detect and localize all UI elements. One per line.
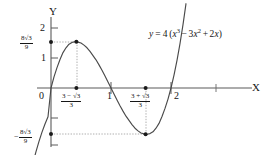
- point-y-axis-min-marker: [49, 132, 53, 136]
- x-tick-label-1: 1: [107, 91, 112, 101]
- equation-minus: −: [182, 29, 187, 39]
- equation-coefficient: 4: [163, 29, 168, 39]
- point-y-axis-max-marker: [49, 40, 53, 44]
- y-max-fraction-label: 8√3 9: [20, 34, 33, 52]
- x-max-fraction-label: 3 − √3 3: [61, 92, 81, 110]
- y-axis-label: Y: [49, 6, 57, 17]
- equation-plus: +: [203, 29, 208, 39]
- point-x-axis-min-marker: [144, 86, 148, 90]
- x-axis-label: X: [252, 82, 260, 93]
- cubic-curve: [33, 4, 186, 155]
- x-min-fraction-label: 3 + √3 3: [130, 92, 150, 110]
- equation-term2-exponent: 2: [198, 27, 201, 34]
- equation-equals: =: [155, 29, 160, 39]
- y-min-sign: −: [14, 133, 19, 141]
- y-min-fraction-label: − 8√3 9: [14, 126, 32, 145]
- equation-term1-exponent: 3: [177, 27, 180, 34]
- y-tick-label-2: 2: [40, 23, 45, 33]
- x-max-denominator: 3: [61, 102, 81, 110]
- equation-lhs: y: [149, 29, 153, 39]
- x-min-denominator: 3: [130, 102, 150, 110]
- curve-equation-label: y=4(x3−3x2+2x): [149, 30, 222, 40]
- point-local-maximum: [74, 40, 78, 44]
- point-local-minimum: [144, 132, 148, 136]
- equation-close-paren: ): [219, 29, 222, 39]
- x-tick-label-0: 0: [39, 91, 44, 101]
- y-tick-label-1: 1: [41, 53, 46, 63]
- point-x-axis-max-marker: [74, 86, 78, 90]
- y-min-denominator: 9: [19, 138, 32, 146]
- x-tick-label-2: 2: [174, 91, 179, 101]
- y-max-denominator: 9: [20, 44, 33, 52]
